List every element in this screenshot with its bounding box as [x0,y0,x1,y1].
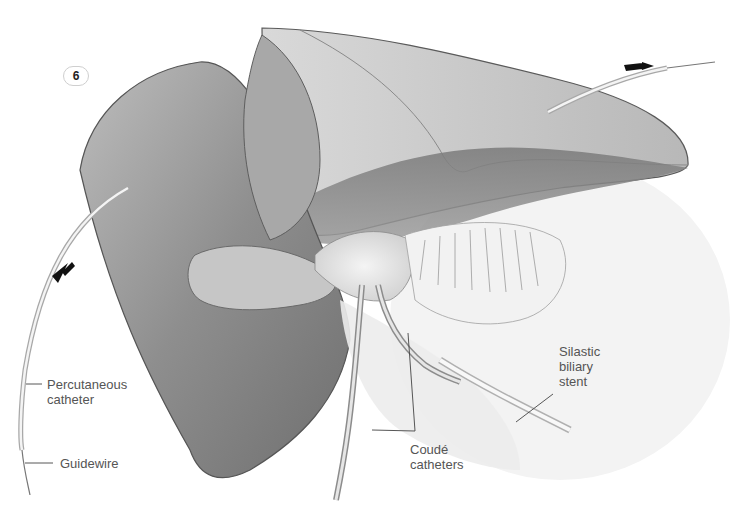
label-guidewire: Guidewire [60,456,119,471]
label-coude-catheters: Coudé catheters [410,442,463,472]
label-percutaneous-catheter: Percutaneous catheter [47,377,127,407]
liver-illustration [0,0,735,532]
figure-number-badge: 6 [63,66,89,86]
guidewire-left [22,450,30,495]
ligament-tissue [405,223,566,324]
label-silastic-biliary-stent: Silastic biliary stent [559,344,600,389]
